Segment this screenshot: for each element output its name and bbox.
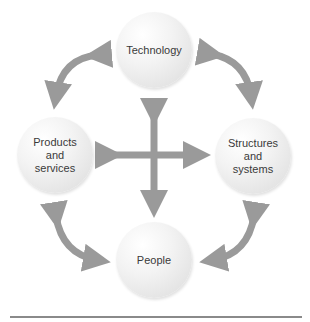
node-label: Products and services: [33, 136, 76, 175]
node-structures-and-systems: Structures and systems: [215, 118, 291, 194]
node-products-and-services: Products and services: [17, 117, 93, 193]
arrow-technology-structures: [211, 54, 251, 96]
node-people: People: [116, 222, 192, 298]
node-technology: Technology: [116, 12, 192, 88]
node-label: People: [137, 254, 171, 267]
arrow-products-people: [56, 216, 97, 260]
node-label: Technology: [126, 44, 182, 57]
arrow-structures-people: [213, 216, 254, 260]
bottom-divider: [10, 316, 302, 318]
arrow-technology-products: [56, 55, 98, 96]
node-label: Structures and systems: [228, 137, 278, 176]
